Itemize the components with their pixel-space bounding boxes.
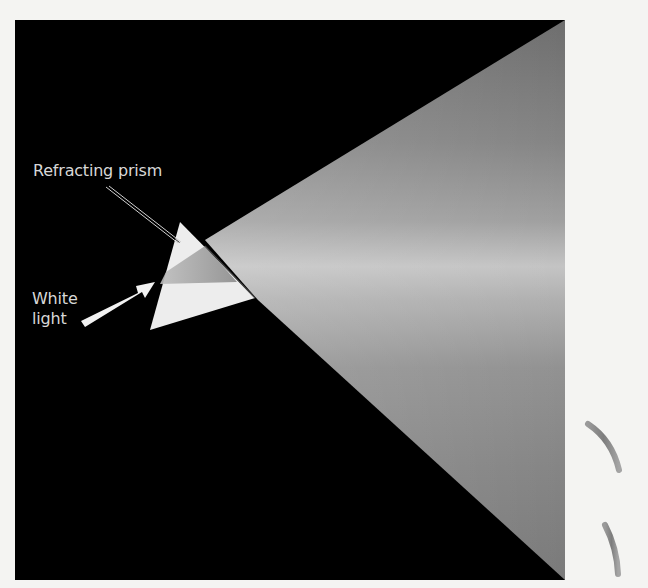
white-light-label: White light (32, 289, 78, 329)
prism-diagram: Refracting prism White light (0, 0, 648, 588)
diagram-canvas (0, 0, 648, 588)
side-mark-curved-2 (605, 525, 618, 574)
white-light-label-line2: light (32, 309, 78, 329)
side-mark-curved-1 (588, 424, 619, 470)
side-marks (588, 66, 619, 574)
white-light-label-line1: White (32, 289, 78, 309)
refracting-prism-label: Refracting prism (33, 161, 162, 181)
